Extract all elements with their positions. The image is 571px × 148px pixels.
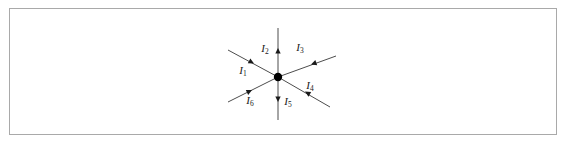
arrowhead-I2 [275, 48, 280, 54]
wire-I1 [228, 50, 278, 77]
current-label-I4: I4 [305, 79, 314, 93]
junction-node [274, 73, 282, 81]
current-label-I5: I5 [283, 95, 292, 109]
wire-I3 [278, 56, 336, 77]
arrowhead-I3 [310, 60, 317, 67]
arrowhead-I1 [248, 58, 255, 65]
current-label-I1: I1 [238, 64, 247, 78]
arrowhead-I5 [275, 96, 280, 102]
current-label-I3: I3 [295, 41, 304, 55]
figure-root: I1 I2 I3 I4 I5 I6 [0, 0, 571, 148]
current-junction-diagram: I1 I2 I3 I4 I5 I6 [0, 0, 571, 148]
current-label-I6: I6 [245, 94, 254, 108]
current-label-I2: I2 [260, 42, 269, 56]
